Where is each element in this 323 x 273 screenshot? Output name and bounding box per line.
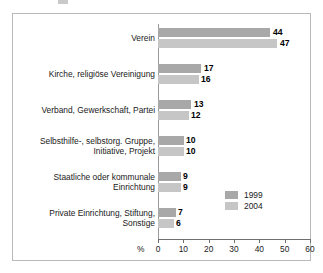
bar-value-2004: 10 [186,147,196,156]
category-label: Verein [3,34,155,44]
category-label: Kirche, religiöse Vereinigung [3,70,155,80]
bar-1999 [158,64,201,73]
x-axis-tick [259,239,260,243]
legend-swatch-icon [225,191,238,199]
x-axis-tick-label: 0 [156,244,161,254]
x-axis-tick-label: 40 [255,244,264,254]
x-axis-tick-label: 10 [179,244,188,254]
bar-1999 [158,172,181,181]
x-axis-tick [158,239,159,243]
category-label: Staatliche oder kommunale Einrichtung [3,173,155,192]
x-axis-tick [234,239,235,243]
bar-value-1999: 44 [273,28,283,37]
bar-value-1999: 10 [186,136,196,145]
bar-2004 [158,219,174,228]
legend-label: 2004 [244,201,263,211]
category-label: Private Einrichtung, Stiftung, Sonstige [3,209,155,228]
x-axis-tick [209,239,210,243]
bar-value-2004: 47 [280,39,290,48]
bar-1999 [158,208,176,217]
category-label: Verband, Gewerkschaft, Partei [3,106,155,116]
bar-value-1999: 17 [204,64,214,73]
x-axis-tick [285,239,286,243]
y-axis-line [158,24,159,239]
legend-label: 1999 [244,190,263,200]
x-axis-unit-label: % [137,244,144,254]
plot-area: Verein 44 47 Kirche, religiöse Vereinigu… [13,14,310,260]
bar-value-1999: 9 [183,172,188,181]
legend-swatch-icon [225,202,238,210]
bar-2004 [158,111,189,120]
bar-value-2004: 9 [183,183,188,192]
x-axis-tick-label: 50 [280,244,289,254]
x-axis-tick-label: 30 [229,244,238,254]
chart-figure: Verein 44 47 Kirche, religiöse Vereinigu… [12,13,311,261]
bar-2004 [158,183,181,192]
bar-1999 [158,136,184,145]
bar-value-2004: 12 [191,111,201,120]
bar-2004 [158,147,184,156]
bar-value-2004: 16 [201,75,211,84]
x-axis-tick-label: 60 [305,244,314,254]
bar-2004 [158,75,199,84]
category-label: Selbsthilfe-, selbstorg. Gruppe, Initiat… [3,137,155,156]
x-axis-tick [310,239,311,243]
bar-value-2004: 6 [176,219,181,228]
bar-2004 [158,39,277,48]
x-axis-tick [183,239,184,243]
bar-1999 [158,28,270,37]
x-axis-tick-label: 20 [204,244,213,254]
bar-1999 [158,100,191,109]
bar-value-1999: 7 [178,208,183,217]
top-edge-artifact [58,0,68,4]
bar-value-1999: 13 [194,100,204,109]
